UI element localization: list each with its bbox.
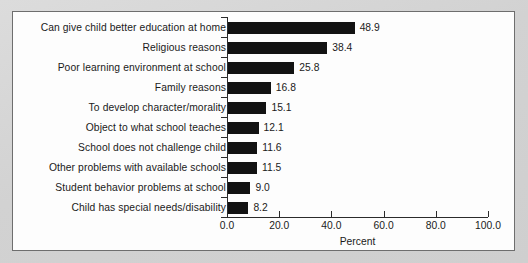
bar-value-label: 25.8 <box>299 58 319 78</box>
category-label: Family reasons <box>155 78 226 98</box>
bar-row: Poor learning environment at school25.8 <box>13 58 514 78</box>
bar-row: Religious reasons38.4 <box>13 38 514 58</box>
chart-frame: Can give child better education at home4… <box>12 11 515 251</box>
bar <box>227 102 266 114</box>
bar-value-label: 11.5 <box>262 158 281 178</box>
bar-row: Other problems with available schools11.… <box>13 158 514 178</box>
bar <box>227 62 294 74</box>
bar-value-label: 15.1 <box>271 98 291 118</box>
y-tick <box>221 177 227 178</box>
plot-area: Can give child better education at home4… <box>13 12 514 250</box>
bar-value-label: 9.0 <box>255 178 269 198</box>
y-tick <box>221 117 227 118</box>
bar <box>227 22 355 34</box>
bar-row: Child has special needs/disability8.2 <box>13 198 514 218</box>
y-tick <box>221 157 227 158</box>
bar <box>227 82 271 94</box>
category-label: School does not challenge child <box>78 138 226 158</box>
x-tick <box>436 211 437 217</box>
bar <box>227 142 257 154</box>
bar-value-label: 38.4 <box>332 38 352 58</box>
x-tick <box>227 211 228 217</box>
y-tick <box>221 137 227 138</box>
x-tick-label: 60.0 <box>374 220 394 231</box>
bar-value-label: 11.6 <box>262 138 281 158</box>
bar-row: Student behavior problems at school9.0 <box>13 178 514 198</box>
category-label: To develop character/morality <box>89 98 226 118</box>
category-label: Other problems with available schools <box>49 158 226 178</box>
y-tick <box>221 197 227 198</box>
category-label: Student behavior problems at school <box>55 178 226 198</box>
bar <box>227 162 257 174</box>
x-tick-label: 0.0 <box>220 220 234 231</box>
bar <box>227 42 327 54</box>
x-tick-label: 40.0 <box>321 220 341 231</box>
x-tick-label: 100.0 <box>475 220 501 231</box>
y-axis-line <box>227 17 228 217</box>
y-tick <box>221 57 227 58</box>
x-tick <box>331 211 332 217</box>
x-tick <box>279 211 280 217</box>
category-label: Object to what school teaches <box>86 118 226 138</box>
x-tick <box>384 211 385 217</box>
bar-row: Object to what school teaches12.1 <box>13 118 514 138</box>
bar-row: School does not challenge child11.6 <box>13 138 514 158</box>
y-tick <box>221 37 227 38</box>
x-axis-title: Percent <box>227 236 488 247</box>
x-tick-label: 80.0 <box>426 220 446 231</box>
bar <box>227 182 250 194</box>
y-tick <box>221 97 227 98</box>
category-label: Poor learning environment at school <box>58 58 226 78</box>
x-tick-label: 20.0 <box>269 220 289 231</box>
figure: Can give child better education at home4… <box>0 0 528 263</box>
category-label: Child has special needs/disability <box>71 198 226 218</box>
bar-row: Family reasons16.8 <box>13 78 514 98</box>
y-tick <box>221 17 227 18</box>
bar-value-label: 48.9 <box>360 18 380 38</box>
bar <box>227 122 259 134</box>
bar-row: To develop character/morality15.1 <box>13 98 514 118</box>
bar-value-label: 8.2 <box>253 198 267 218</box>
y-tick <box>221 77 227 78</box>
bar <box>227 202 248 214</box>
x-axis-line <box>227 217 488 218</box>
category-label: Can give child better education at home <box>41 18 226 38</box>
x-tick <box>488 211 489 217</box>
bar-row: Can give child better education at home4… <box>13 18 514 38</box>
category-label: Religious reasons <box>142 38 226 58</box>
bar-value-label: 12.1 <box>264 118 284 138</box>
bar-value-label: 16.8 <box>276 78 296 98</box>
